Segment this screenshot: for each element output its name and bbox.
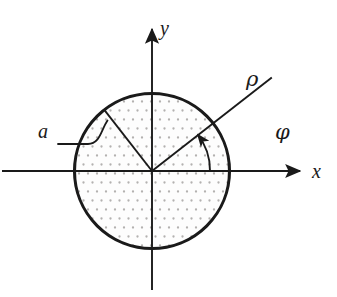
rho-label: ρ (245, 67, 259, 91)
phi-label: φ (275, 120, 290, 144)
radius-a-label: a (38, 120, 48, 142)
x-axis-label: x (311, 160, 321, 182)
y-axis-label: y (158, 17, 169, 40)
figure-canvas: x y a ρ φ (0, 0, 337, 297)
polar-disk-figure: x y a ρ φ (0, 0, 337, 297)
